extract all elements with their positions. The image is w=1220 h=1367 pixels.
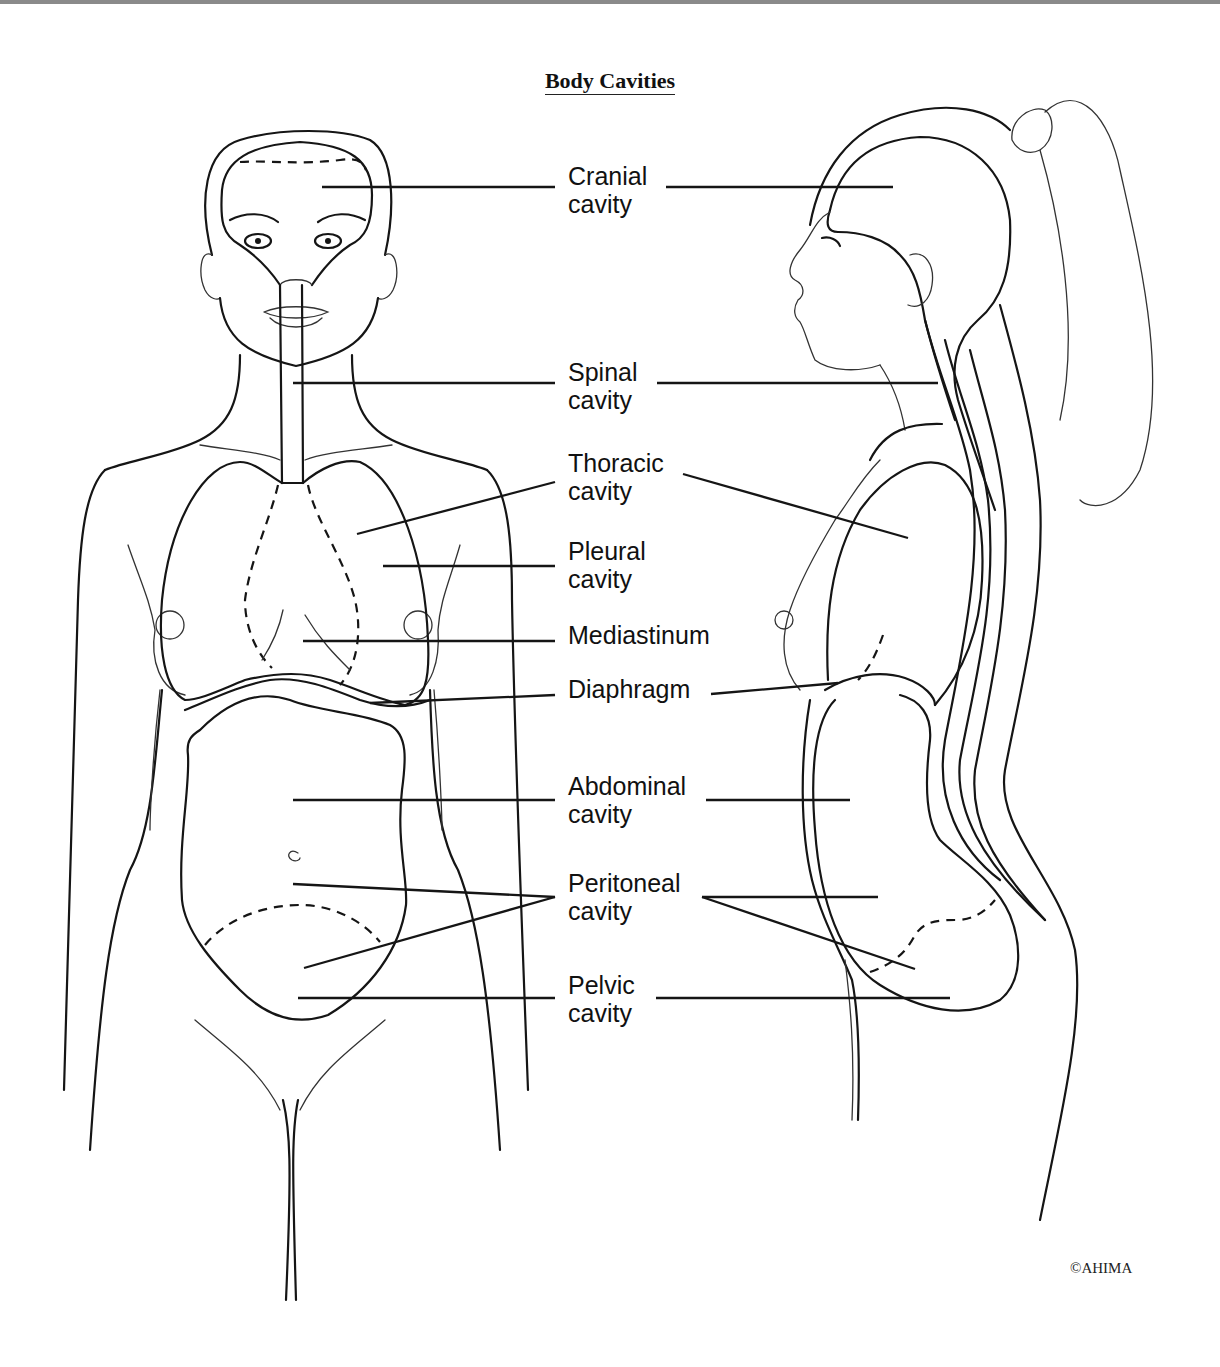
leader-line-peritoneal: [702, 897, 915, 969]
label-subtext-peritoneal: cavity: [568, 897, 632, 925]
lateral-cranial-cavity: [830, 137, 1010, 510]
groin-left: [195, 1020, 280, 1110]
label-thoracic: Thoraciccavity: [357, 449, 908, 538]
label-text-thoracic: Thoracic: [568, 449, 664, 477]
label-subtext-abdominal: cavity: [568, 800, 632, 828]
label-subtext-cranial: cavity: [568, 190, 632, 218]
leg-gap-right: [293, 1100, 298, 1300]
neck-left: [105, 355, 240, 470]
leader-line-thoracic: [357, 482, 555, 534]
leader-line-thoracic: [683, 474, 908, 538]
label-text-pleural: Pleural: [568, 537, 646, 565]
right-ear: [378, 254, 397, 299]
clavicle-right: [305, 445, 392, 460]
label-cranial: Cranialcavity: [322, 162, 893, 218]
label-mediastinum: Mediastinum: [303, 621, 710, 649]
right-pupil: [325, 238, 331, 244]
face-contour: [220, 298, 378, 366]
lips: [264, 307, 328, 327]
label-subtext-pleural: cavity: [568, 565, 632, 593]
label-subtext-spinal: cavity: [568, 386, 632, 414]
leader-line-diaphragm: [370, 695, 555, 703]
torso-left-side: [90, 690, 162, 1150]
label-text-peritoneal: Peritoneal: [568, 869, 681, 897]
mediastinum-dashed-right: [308, 485, 358, 685]
lateral-chest-upper: [870, 424, 942, 460]
left-ear: [201, 254, 220, 299]
copyright-notice: ©AHIMA: [1070, 1260, 1132, 1277]
leader-line-diaphragm: [711, 683, 838, 694]
body-cavities-figure: CranialcavitySpinalcavityThoraciccavityP…: [0, 0, 1220, 1367]
navel: [289, 851, 300, 860]
ponytail: [1045, 101, 1153, 506]
label-text-pelvic: Pelvic: [568, 971, 635, 999]
label-text-cranial: Cranial: [568, 162, 647, 190]
right-breast: [410, 545, 460, 695]
label-abdominal: Abdominalcavity: [293, 772, 850, 828]
lateral-chest-front: [784, 460, 880, 690]
mediastinum-center-left: [262, 610, 283, 660]
torso-right-side: [430, 690, 500, 1150]
lateral-neck: [880, 365, 905, 430]
label-subtext-pelvic: cavity: [568, 999, 632, 1027]
lateral-cranial-inner: [828, 210, 955, 420]
neck-right: [352, 355, 487, 470]
leader-line-peritoneal: [293, 884, 555, 897]
label-text-diaphragm: Diaphragm: [568, 675, 690, 703]
ponytail-bun: [1012, 109, 1052, 152]
label-subtext-thoracic: cavity: [568, 477, 632, 505]
cranial-dashed-line: [240, 159, 366, 170]
leg-gap-left: [283, 1100, 290, 1300]
lateral-diaphragm: [825, 674, 935, 705]
left-arm-outer: [64, 470, 105, 1090]
pelvic-dashed-line: [205, 905, 380, 945]
spinal-canal-left: [280, 285, 282, 483]
back-outline: [1000, 305, 1077, 1220]
abdominal-cavity-outline: [181, 696, 406, 1019]
lateral-head-outer: [810, 108, 1010, 225]
right-eyebrow: [318, 214, 365, 222]
lateral-nipple: [775, 611, 793, 629]
label-text-spinal: Spinal: [568, 358, 638, 386]
mediastinum-center-right: [305, 615, 350, 670]
lateral-eye: [822, 237, 840, 246]
head-outline: [205, 131, 391, 255]
left-eyebrow: [230, 214, 278, 222]
label-text-abdominal: Abdominal: [568, 772, 686, 800]
lateral-view: [775, 101, 1153, 1220]
anterior-view: [64, 131, 528, 1300]
left-pupil: [255, 238, 261, 244]
ponytail-inner: [1040, 150, 1068, 420]
lateral-thoracic-cavity: [827, 462, 982, 705]
label-diaphragm: Diaphragm: [370, 675, 838, 703]
lateral-front-line: [803, 700, 859, 1120]
leader-line-peritoneal: [304, 897, 555, 968]
thoracic-cavity-outline: [161, 461, 428, 705]
clavicle-left: [200, 445, 280, 460]
spine-line-3: [970, 350, 1045, 920]
label-text-mediastinum: Mediastinum: [568, 621, 710, 649]
label-spinal: Spinalcavity: [293, 358, 938, 414]
cranial-cavity-outline: [221, 142, 372, 285]
nose: [280, 280, 312, 285]
groin-right: [300, 1020, 385, 1110]
